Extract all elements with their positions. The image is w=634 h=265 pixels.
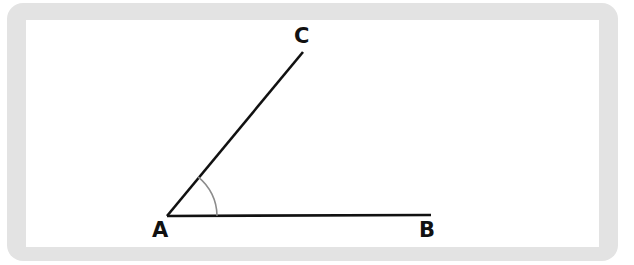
vertex-label-a: A: [152, 220, 168, 241]
diagram-canvas: A B C: [0, 0, 634, 265]
drawing-area: [26, 20, 599, 247]
vertex-label-c: C: [294, 26, 309, 47]
vertex-label-b: B: [419, 220, 435, 241]
